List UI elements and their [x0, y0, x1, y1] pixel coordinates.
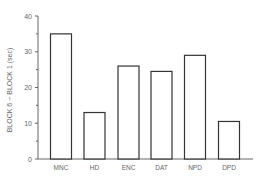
x-tick-label: ENC: [122, 164, 136, 171]
y-tick-label: 40: [24, 13, 32, 20]
bar-mnc: [51, 34, 72, 159]
x-axis: MNCHDENCDATNPDDPD: [38, 159, 253, 171]
bar-hd: [84, 113, 105, 159]
x-tick-label: NPD: [188, 164, 202, 171]
y-axis-label: BLOCK 6 − BLOCK 1 (sec): [6, 48, 14, 133]
bar-dpd: [219, 121, 240, 159]
y-tick-label: 30: [24, 48, 32, 55]
bar-enc: [118, 66, 139, 159]
x-tick-label: DPD: [222, 164, 236, 171]
y-axis: 010203040: [24, 13, 38, 163]
x-tick-label: HD: [90, 164, 100, 171]
y-tick-label: 0: [28, 156, 32, 163]
x-tick-label: MNC: [54, 164, 69, 171]
y-tick-label: 20: [24, 84, 32, 91]
bar-chart: 010203040 MNCHDENCDATNPDDPD BLOCK 6 − BL…: [0, 0, 261, 180]
bar-npd: [185, 55, 206, 159]
x-tick-label: DAT: [155, 164, 168, 171]
bar-dat: [151, 71, 172, 159]
bars: [51, 34, 240, 159]
y-tick-label: 10: [24, 120, 32, 127]
